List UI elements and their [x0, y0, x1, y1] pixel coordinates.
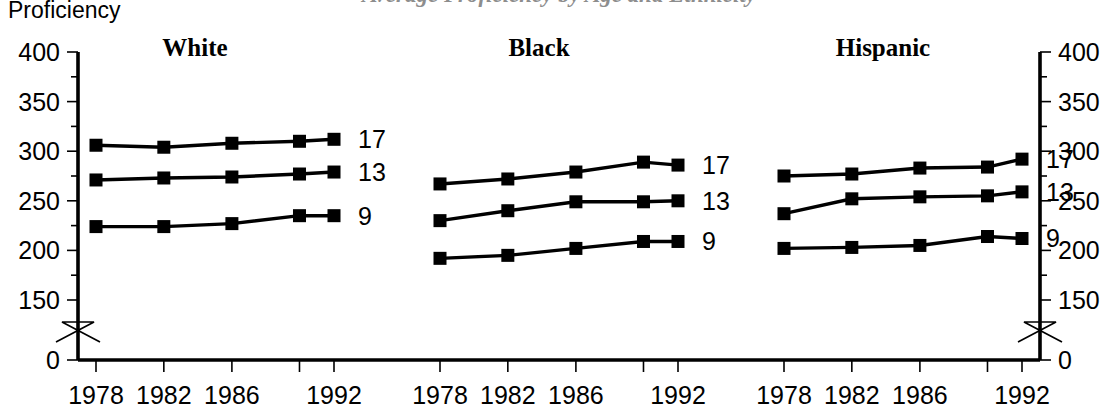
x-axis-tick-label: 1986	[892, 381, 948, 409]
data-point-age-9	[845, 241, 858, 254]
data-point-age-17	[981, 161, 994, 174]
data-point-age-13	[569, 195, 582, 208]
x-axis-tick-label: 1986	[204, 381, 260, 409]
panel-white: 17139	[90, 125, 386, 233]
data-point-age-9	[90, 220, 103, 233]
data-point-age-17	[913, 162, 926, 175]
series-label-age-13: 13	[1046, 178, 1074, 206]
data-point-age-17	[1016, 153, 1029, 166]
data-point-age-9	[501, 249, 514, 262]
data-point-age-17	[672, 159, 685, 172]
series-label-age-13: 13	[358, 158, 386, 186]
data-point-age-13	[501, 204, 514, 217]
data-point-age-17	[778, 170, 791, 183]
x-axis-tick-label: 1992	[306, 381, 362, 409]
data-point-age-9	[672, 235, 685, 248]
right-axis-tick-label: 0	[1058, 346, 1072, 374]
x-axis-tick-label: 1982	[480, 381, 536, 409]
data-point-age-13	[637, 195, 650, 208]
panel-titles-group: WhiteBlackHispanic	[162, 34, 930, 61]
panel-title-hispanic: Hispanic	[836, 34, 930, 61]
right-axis-tick-label: 350	[1058, 88, 1100, 116]
left-axis-tick-label: 150	[18, 286, 60, 314]
data-point-age-13	[981, 189, 994, 202]
data-point-age-13	[1016, 185, 1029, 198]
left-axis-tick-label: 250	[18, 187, 60, 215]
x-axis-tick-label: 1982	[824, 381, 880, 409]
x-axis-tick-label: 1978	[68, 381, 124, 409]
panel-title-black: Black	[508, 34, 569, 61]
left-axis-tick-label: 0	[46, 346, 60, 374]
panel-black: 17139	[434, 151, 730, 265]
x-axis-tick-label: 1978	[412, 381, 468, 409]
data-point-age-9	[1016, 232, 1029, 245]
data-point-age-9	[157, 220, 170, 233]
data-point-age-17	[90, 139, 103, 152]
series-label-age-9: 9	[1046, 224, 1060, 252]
data-point-age-17	[225, 137, 238, 150]
x-axis-tick-label: 1992	[994, 381, 1050, 409]
left-axis-tick-label: 400	[18, 38, 60, 66]
data-point-age-9	[913, 239, 926, 252]
right-axis-tick-label: 150	[1058, 286, 1100, 314]
data-point-age-9	[293, 209, 306, 222]
data-point-age-13	[90, 173, 103, 186]
chart-container: Average Proficiency by Age and Ethnicity…	[0, 0, 1118, 418]
data-point-age-9	[637, 235, 650, 248]
data-point-age-13	[293, 168, 306, 181]
proficiency-line-chart: Average Proficiency by Age and Ethnicity…	[0, 0, 1118, 418]
data-point-age-17	[845, 168, 858, 181]
data-point-age-13	[157, 171, 170, 184]
x-axis-tick-label: 1978	[756, 381, 812, 409]
cut-off-title: Average Proficiency by Age and Ethnicity	[360, 0, 757, 7]
x-axes: 1978198219861992197819821986199219781982…	[68, 360, 1050, 409]
data-point-age-17	[328, 133, 341, 146]
cut-off-title-text: Average Proficiency by Age and Ethnicity	[360, 0, 757, 7]
data-point-age-9	[981, 230, 994, 243]
data-point-age-13	[913, 190, 926, 203]
left-axis-tick-label: 350	[18, 88, 60, 116]
data-point-age-17	[569, 166, 582, 179]
y-axis-title: Proficiency	[8, 0, 121, 23]
data-point-age-13	[225, 170, 238, 183]
data-point-age-9	[328, 209, 341, 222]
data-point-age-17	[434, 177, 447, 190]
left-axis-tick-label: 200	[18, 236, 60, 264]
x-axis-tick-label: 1986	[548, 381, 604, 409]
x-axis-tick-label: 1992	[650, 381, 706, 409]
data-point-age-9	[225, 217, 238, 230]
left-y-axis: 0150200250300350400	[18, 38, 100, 374]
series-label-age-13: 13	[702, 187, 730, 215]
data-point-age-17	[157, 141, 170, 154]
x-axis-tick-label: 1982	[136, 381, 192, 409]
series-label-age-17: 17	[1046, 145, 1074, 173]
series-label-age-9: 9	[358, 202, 372, 230]
data-point-age-13	[328, 166, 341, 179]
data-point-age-17	[637, 156, 650, 169]
data-point-age-13	[845, 192, 858, 205]
data-point-age-9	[569, 242, 582, 255]
right-axis-tick-label: 400	[1058, 38, 1100, 66]
right-axis-tick-label: 200	[1058, 236, 1100, 264]
series-label-age-9: 9	[702, 227, 716, 255]
panel-hispanic: 17139	[778, 145, 1074, 255]
data-point-age-13	[672, 194, 685, 207]
data-point-age-9	[778, 242, 791, 255]
series-label-age-17: 17	[702, 151, 730, 179]
series-label-age-17: 17	[358, 125, 386, 153]
panel-series-group: 171391713917139	[90, 125, 1074, 265]
data-point-age-13	[778, 207, 791, 220]
data-point-age-17	[293, 135, 306, 148]
left-axis-tick-label: 300	[18, 137, 60, 165]
data-point-age-13	[434, 214, 447, 227]
panel-title-white: White	[162, 34, 227, 61]
data-point-age-17	[501, 172, 514, 185]
right-y-axis: 0150200250300350400	[1018, 38, 1100, 374]
data-point-age-9	[434, 252, 447, 265]
